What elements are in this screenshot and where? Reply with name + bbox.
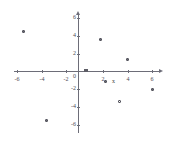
data-point [151, 88, 154, 91]
x-tick-mark [103, 70, 104, 73]
x-tick-mark [152, 70, 153, 73]
y-tick-label-origin: 0 [64, 73, 76, 80]
x-tick-label: -6 [10, 76, 24, 83]
y-tick-label: -2 [64, 85, 76, 92]
data-point [45, 119, 48, 122]
x-axis-title: x [112, 78, 115, 85]
x-tick-label: 4 [121, 76, 135, 83]
y-tick-mark [77, 18, 80, 19]
x-tick-mark [128, 70, 129, 73]
x-tick-mark [17, 70, 18, 73]
y-tick-label: 6 [64, 14, 76, 21]
data-point [22, 30, 25, 33]
y-tick-mark [77, 107, 80, 108]
y-tick-mark [77, 89, 80, 90]
data-point [99, 38, 102, 41]
y-tick-label: 2 [64, 50, 76, 57]
y-tick-mark [77, 125, 80, 126]
y-tick-mark [77, 54, 80, 55]
y-axis-arrow-icon [76, 11, 80, 15]
data-point [118, 100, 121, 103]
origin-marker [84, 69, 88, 72]
y-tick-label: -4 [64, 103, 76, 110]
plot-area: -6 -4 -2 2 4 6 6 4 2 0 -2 -4 -6 x [0, 0, 173, 144]
y-axis-line [78, 14, 79, 133]
x-tick-mark [42, 70, 43, 73]
x-axis-arrow-icon [159, 69, 163, 73]
scatter-plot: -6 -4 -2 2 4 6 6 4 2 0 -2 -4 -6 x [0, 0, 173, 144]
x-tick-label: 6 [145, 76, 159, 83]
y-tick-label: -6 [64, 121, 76, 128]
data-point [126, 58, 129, 61]
x-tick-label: -4 [35, 76, 49, 83]
y-tick-mark [77, 36, 80, 37]
data-point [104, 80, 107, 83]
x-tick-label: 2 [96, 76, 110, 83]
y-tick-label: 4 [64, 32, 76, 39]
